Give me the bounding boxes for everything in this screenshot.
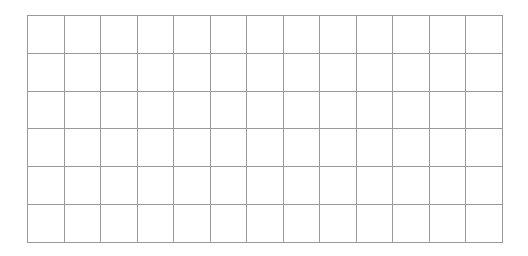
grid-cell bbox=[28, 92, 65, 130]
grid-cell bbox=[138, 129, 175, 167]
grid-cell bbox=[101, 54, 138, 92]
grid-cell bbox=[430, 129, 467, 167]
grid-cell bbox=[174, 167, 211, 205]
grid-cell bbox=[393, 167, 430, 205]
grid-cell bbox=[174, 92, 211, 130]
grid-cell bbox=[174, 205, 211, 243]
grid-cell bbox=[211, 54, 248, 92]
grid-cell bbox=[138, 16, 175, 54]
grid-cell bbox=[320, 54, 357, 92]
grid-cell bbox=[284, 129, 321, 167]
grid-cell bbox=[65, 16, 102, 54]
grid-cell bbox=[466, 92, 503, 130]
grid-cell bbox=[65, 129, 102, 167]
grid-cell bbox=[28, 129, 65, 167]
grid-cell bbox=[320, 92, 357, 130]
grid-cell bbox=[430, 16, 467, 54]
grid-cell bbox=[101, 16, 138, 54]
grid-cell bbox=[28, 205, 65, 243]
grid-cell bbox=[138, 92, 175, 130]
grid-cell bbox=[357, 54, 394, 92]
grid-cell bbox=[101, 92, 138, 130]
grid-cell bbox=[320, 129, 357, 167]
grid-cell bbox=[138, 167, 175, 205]
grid-cell bbox=[138, 205, 175, 243]
grid-cell bbox=[357, 167, 394, 205]
grid-cell bbox=[466, 129, 503, 167]
grid-cell bbox=[466, 205, 503, 243]
grid-cell bbox=[284, 92, 321, 130]
grid-cell bbox=[247, 16, 284, 54]
grid-cell bbox=[211, 16, 248, 54]
grid-cell bbox=[247, 205, 284, 243]
grid-cell bbox=[393, 54, 430, 92]
grid-cell bbox=[247, 129, 284, 167]
grid-cell bbox=[393, 129, 430, 167]
grid-cell bbox=[320, 16, 357, 54]
empty-grid bbox=[27, 15, 503, 243]
grid-cell bbox=[65, 205, 102, 243]
grid-cell bbox=[174, 16, 211, 54]
grid-cell bbox=[101, 167, 138, 205]
grid-cell bbox=[320, 167, 357, 205]
grid-cell bbox=[247, 92, 284, 130]
grid-cell bbox=[284, 54, 321, 92]
grid-cell bbox=[393, 205, 430, 243]
grid-cell bbox=[466, 16, 503, 54]
grid-cell bbox=[430, 205, 467, 243]
grid-cell bbox=[65, 167, 102, 205]
grid-cell bbox=[430, 167, 467, 205]
grid-cell bbox=[28, 167, 65, 205]
grid-cell bbox=[174, 54, 211, 92]
grid-cell bbox=[284, 167, 321, 205]
grid-cell bbox=[211, 167, 248, 205]
grid-cell bbox=[430, 92, 467, 130]
grid-cell bbox=[211, 205, 248, 243]
grid-cell bbox=[357, 129, 394, 167]
grid-cell bbox=[211, 92, 248, 130]
grid-cell bbox=[357, 16, 394, 54]
grid-cell bbox=[138, 54, 175, 92]
grid-cell bbox=[284, 205, 321, 243]
grid-cell bbox=[174, 129, 211, 167]
grid-cell bbox=[65, 92, 102, 130]
grid-cell bbox=[65, 54, 102, 92]
grid-cell bbox=[357, 92, 394, 130]
grid-cell bbox=[28, 16, 65, 54]
grid-cell bbox=[466, 167, 503, 205]
grid-cell bbox=[357, 205, 394, 243]
grid-cell bbox=[101, 205, 138, 243]
grid-cell bbox=[284, 16, 321, 54]
grid-cell bbox=[466, 54, 503, 92]
grid-cell bbox=[430, 54, 467, 92]
grid-cell bbox=[320, 205, 357, 243]
grid-cell bbox=[247, 167, 284, 205]
grid-cell bbox=[211, 129, 248, 167]
grid-cell bbox=[247, 54, 284, 92]
grid-cell bbox=[393, 16, 430, 54]
grid-cell bbox=[28, 54, 65, 92]
grid-cell bbox=[393, 92, 430, 130]
grid-cell bbox=[101, 129, 138, 167]
